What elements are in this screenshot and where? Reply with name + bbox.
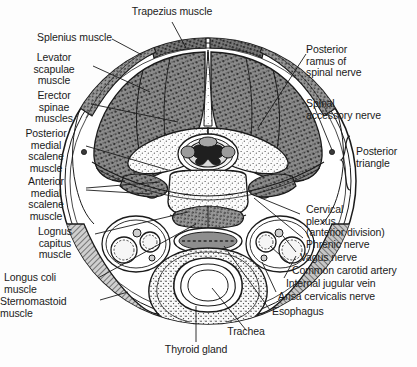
label-posterior-triangle: Posterior triangle	[356, 146, 416, 169]
longus-colli-capitis-group	[173, 206, 244, 228]
trachea	[174, 258, 242, 312]
label-trachea: Trachea	[214, 326, 278, 338]
label-phrenic-nerve: Phrenic nerve	[306, 239, 416, 251]
label-internal-jugular-vein: Internal jugular vein	[286, 278, 412, 290]
label-esophagus: Esophagus	[272, 306, 356, 318]
label-cervical-plexus: Cervical plexus (anterior division)	[306, 204, 417, 239]
anatomy-figure: Palmer	[0, 0, 417, 367]
label-posterior-medial-scalene-muscle: Posterior medial scalene muscle	[4, 128, 88, 174]
artist-signature: Palmer	[182, 325, 203, 332]
label-posterior-ramus-of-spinal-nerve: Posterior ramus of spinal nerve	[306, 44, 406, 79]
label-splenius-muscle: Splenius muscle	[8, 32, 112, 44]
label-sternomastoid-muscle: Sternomastoid muscle	[0, 296, 100, 319]
label-vagus-nerve: Vagus nerve	[300, 252, 412, 264]
label-trapezius-muscle: Trapezius muscle	[96, 6, 248, 18]
label-longus-colli-muscle: Longus coli muscle	[4, 272, 100, 295]
label-anterior-medial-scalene-muscle: Anterior medial scalene muscle	[4, 176, 88, 222]
label-thyroid-gland: Thyroid gland	[146, 344, 246, 356]
label-spinal-accessory-nerve: Spinal accessory nerve	[306, 98, 410, 121]
label-levator-scapulae-muscle: Levator scapulae muscle	[12, 52, 96, 87]
label-common-carotid-artery: Common carotid artery	[292, 265, 417, 277]
label-ansa-cervicalis-nerve: Ansa cervicalis nerve	[278, 291, 410, 303]
label-longus-capitis-muscle: Lognus capitus muscle	[14, 226, 96, 261]
label-erector-spinae-muscles: Erector spinae muscles	[12, 90, 96, 125]
